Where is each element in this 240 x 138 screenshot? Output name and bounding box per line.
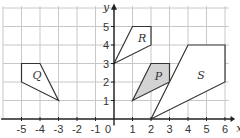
x-tick-label: -5: [17, 123, 27, 135]
x-tick-label: -1: [91, 123, 101, 135]
x-axis-label: x: [236, 122, 240, 135]
grid-plot: QRPSxy-5-4-3-2-1123456012345: [0, 0, 240, 138]
x-tick-label: 2: [148, 123, 154, 135]
shape-label-p: P: [154, 70, 163, 83]
coordinate-grid-diagram: QRPSxy-5-4-3-2-1123456012345: [0, 0, 240, 138]
shape-label-s: S: [197, 69, 205, 82]
shape-label-q: Q: [33, 69, 42, 82]
y-tick-label: 4: [103, 39, 109, 51]
x-axis-arrow-icon: [231, 116, 236, 122]
x-tick-label: 6: [222, 123, 228, 135]
y-tick-label: 2: [103, 76, 109, 88]
y-tick-label: 1: [103, 95, 109, 107]
y-tick-label: 3: [103, 58, 109, 70]
x-tick-label: 5: [203, 123, 209, 135]
x-tick-label: 3: [166, 123, 172, 135]
x-tick-label: 4: [185, 123, 191, 135]
x-tick-label: -3: [54, 123, 64, 135]
x-tick-label: -2: [72, 123, 82, 135]
x-tick-label: -4: [35, 123, 45, 135]
origin-label: 0: [105, 123, 111, 135]
shape-label-r: R: [137, 32, 146, 45]
y-axis-arrow-icon: [111, 3, 117, 9]
x-tick-label: 1: [129, 123, 135, 135]
y-tick-label: 5: [103, 21, 109, 33]
y-axis-label: y: [102, 1, 110, 14]
